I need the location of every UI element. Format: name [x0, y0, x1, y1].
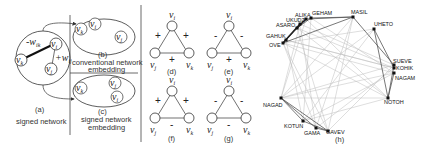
svg-text:embedding: embedding: [88, 123, 125, 132]
svg-text:vj: vj: [150, 124, 156, 136]
triangle-d: vi vj vk + + + (d): [150, 9, 194, 76]
node-nagad: NAGAD: [263, 102, 283, 108]
panel-h-tribe-network: ALIKA GEHAM UKUDZ ASARO GAHUK OVE MASIL …: [263, 9, 416, 144]
node-kotun: KOTUN: [284, 123, 303, 129]
node-masil: MASIL: [351, 9, 368, 15]
node-asaro: ASARO: [276, 22, 296, 28]
svg-text:+: +: [155, 30, 161, 41]
caption-f: (f): [168, 134, 176, 143]
svg-text:-: -: [240, 30, 243, 41]
svg-text:+: +: [155, 95, 161, 106]
svg-text:vi: vi: [169, 9, 175, 21]
caption-a-letter: (a): [35, 105, 45, 114]
arrow-to-b: [43, 23, 76, 31]
triangle-f: vi vj vk + + - (f): [150, 74, 194, 143]
node-uheto: UHETO: [374, 21, 394, 27]
svg-text:-: -: [214, 95, 217, 106]
neg-weight-label: -wik: [26, 36, 41, 48]
panel-a-signed-network: vk vi vj -wik +wij (a) signed network: [15, 23, 76, 126]
triangle-e: vi vj vk - - + (e): [207, 9, 251, 76]
node-nagam: NAGAM: [395, 75, 416, 81]
svg-text:vj: vj: [150, 59, 156, 71]
svg-text:+: +: [169, 54, 175, 65]
svg-text:vk: vk: [186, 124, 193, 136]
node-kohik: KOHIK: [396, 65, 413, 71]
svg-text:-: -: [240, 95, 243, 106]
panel-b-conventional-embedding: vk vi vj (b) conventional network embedd…: [72, 18, 143, 74]
node-gahuk: GAHUK: [266, 33, 286, 39]
svg-text:vk: vk: [243, 59, 250, 71]
node-geham: GEHAM: [312, 10, 333, 16]
arrow-to-c: [43, 85, 74, 99]
svg-text:vk: vk: [243, 124, 250, 136]
caption-g: (g): [224, 134, 234, 143]
svg-text:+: +: [226, 54, 232, 65]
caption-a: signed network: [16, 117, 67, 126]
triangle-g: vi vj vk - - - (g): [207, 74, 251, 143]
svg-text:-: -: [227, 119, 230, 130]
node-sueve: SUEVE: [393, 58, 412, 64]
svg-text:vi: vi: [226, 9, 232, 21]
svg-text:vk: vk: [186, 59, 193, 71]
caption-h: (h): [335, 135, 345, 144]
panel-c-signed-embedding: vk vj vi (c) signed network embedding: [73, 75, 135, 132]
svg-text:+: +: [183, 95, 189, 106]
svg-text:-: -: [170, 119, 173, 130]
signed-network-figure: vk vi vj -wik +wij (a) signed network vk…: [0, 0, 430, 153]
svg-text:embedding: embedding: [88, 65, 125, 74]
node-notoh: NOTOH: [384, 99, 404, 105]
svg-text:-: -: [214, 30, 217, 41]
node-gama: GAMA: [304, 130, 321, 136]
svg-text:+: +: [183, 30, 189, 41]
node-ove: OVE: [269, 42, 281, 48]
svg-text:vj: vj: [207, 59, 213, 71]
svg-text:vj: vj: [207, 124, 213, 136]
